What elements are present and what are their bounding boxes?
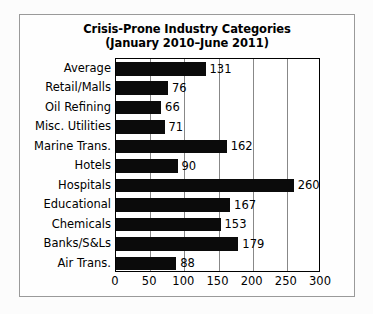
bar-value-label: 90: [182, 158, 197, 174]
bar[interactable]: [116, 257, 176, 271]
bar-value-label: 131: [210, 61, 232, 77]
category-label: Hospitals: [18, 177, 111, 193]
chart-figure: Crisis-Prone Industry Categories (Januar…: [0, 0, 373, 314]
bar-row[interactable]: 90: [116, 156, 319, 175]
category-label: Retail/Malls: [18, 79, 111, 95]
bar[interactable]: [116, 218, 221, 232]
category-label: Average: [18, 60, 111, 76]
bar[interactable]: [116, 140, 227, 154]
category-label: Hotels: [18, 157, 111, 173]
bar-value-label: 88: [180, 255, 195, 271]
bar[interactable]: [116, 101, 161, 115]
x-tick-label: 250: [275, 274, 297, 288]
bar-row[interactable]: 71: [116, 117, 319, 136]
x-tick-label: 300: [309, 274, 331, 288]
bar-value-label: 167: [234, 197, 256, 213]
category-label: Banks/S&Ls: [18, 235, 111, 251]
bar[interactable]: [116, 159, 178, 173]
chart-title-subtitle: (January 2010–June 2011): [19, 36, 355, 50]
chart-title: Crisis-Prone Industry Categories (Januar…: [19, 22, 355, 50]
category-label: Oil Refining: [18, 99, 111, 115]
bars-layer: 1317666711629026016715317988: [116, 59, 319, 271]
x-tick-label: 0: [111, 274, 118, 288]
x-tick-label: 150: [207, 274, 229, 288]
bar[interactable]: [116, 62, 206, 76]
bar-value-label: 71: [169, 119, 184, 135]
bar[interactable]: [116, 198, 230, 212]
bar-row[interactable]: 260: [116, 176, 319, 195]
bar-row[interactable]: 162: [116, 137, 319, 156]
bar-row[interactable]: 131: [116, 59, 319, 78]
x-axis-tick-labels: 050100150200250300: [115, 274, 320, 292]
chart-title-main: Crisis-Prone Industry Categories: [83, 22, 291, 36]
bar-row[interactable]: 66: [116, 98, 319, 117]
bar[interactable]: [116, 237, 238, 251]
x-tick-label: 100: [172, 274, 194, 288]
category-label: Air Trans.: [18, 255, 111, 271]
bar[interactable]: [116, 179, 294, 193]
category-label: Marine Trans.: [18, 138, 111, 154]
bar-row[interactable]: 153: [116, 215, 319, 234]
bar-row[interactable]: 76: [116, 78, 319, 97]
bar-row[interactable]: 88: [116, 254, 319, 273]
bar[interactable]: [116, 81, 168, 95]
bar-value-label: 179: [242, 236, 264, 252]
bar-value-label: 260: [298, 177, 320, 193]
bar-row[interactable]: 179: [116, 234, 319, 253]
x-tick-label: 200: [241, 274, 263, 288]
bar-row[interactable]: 167: [116, 195, 319, 214]
x-tick-label: 50: [142, 274, 157, 288]
category-label: Educational: [18, 196, 111, 212]
bar-value-label: 153: [225, 216, 247, 232]
plot-area: 1317666711629026016715317988: [115, 58, 320, 272]
category-axis-labels: AverageRetail/MallsOil RefiningMisc. Uti…: [18, 58, 111, 272]
category-label: Misc. Utilities: [18, 118, 111, 134]
bar-value-label: 66: [165, 99, 180, 115]
category-label: Chemicals: [18, 216, 111, 232]
bar-value-label: 162: [231, 138, 253, 154]
bar[interactable]: [116, 120, 165, 134]
bar-value-label: 76: [172, 80, 187, 96]
